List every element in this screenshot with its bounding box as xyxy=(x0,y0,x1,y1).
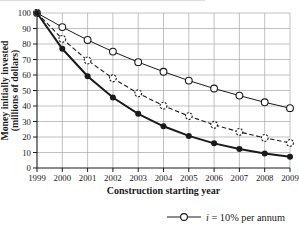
x-tick-label: 1999 xyxy=(28,173,46,183)
data-point-open-circle-dashed xyxy=(236,128,243,135)
data-point-filled-circle xyxy=(85,73,91,79)
data-point-open-circle-dashed xyxy=(287,139,294,146)
x-tick-label: 2007 xyxy=(231,173,249,183)
data-point-open-circle-dashed xyxy=(211,121,218,128)
data-point-open-circle xyxy=(135,59,142,66)
data-point-open-circle xyxy=(185,77,192,84)
data-point-open-circle-dashed xyxy=(261,135,268,142)
data-point-open-circle-dashed xyxy=(59,35,66,42)
y-tick-label: 40 xyxy=(22,101,31,111)
x-tick-label: 2002 xyxy=(104,173,122,183)
x-tick-label: 2001 xyxy=(79,173,97,183)
data-point-filled-circle xyxy=(287,154,293,160)
y-tick-label: 100 xyxy=(18,8,32,18)
legend-label-rest: = 10% per annum xyxy=(209,212,285,223)
data-point-filled-circle xyxy=(211,140,217,146)
legend-marker-circle xyxy=(181,214,188,221)
data-point-open-circle xyxy=(84,37,91,44)
figure: Money initially invested (millions of do… xyxy=(0,0,299,232)
data-point-open-circle-dashed xyxy=(135,90,142,97)
legend: i = 10% per annum xyxy=(167,212,285,223)
axes: 0102030405060708090100199920002001200220… xyxy=(18,8,299,183)
x-tick-label: 2000 xyxy=(54,173,72,183)
legend-label: i = 10% per annum xyxy=(206,212,285,223)
y-tick-label: 60 xyxy=(22,70,31,80)
x-tick-label: 2005 xyxy=(180,173,198,183)
gridlines xyxy=(37,13,290,168)
x-tick-label: 2006 xyxy=(205,173,223,183)
data-point-filled-circle xyxy=(262,150,268,156)
data-point-open-circle xyxy=(236,92,243,99)
data-point-open-circle-dashed xyxy=(110,75,117,82)
x-tick-label: 2004 xyxy=(155,173,173,183)
x-axis-title: Construction starting year xyxy=(107,185,221,196)
data-point-open-circle xyxy=(59,24,66,31)
data-point-filled-circle xyxy=(59,46,65,52)
data-point-filled-circle xyxy=(34,10,40,16)
data-point-filled-circle xyxy=(236,146,242,152)
data-point-open-circle xyxy=(287,105,294,112)
chart-canvas: Money initially invested (millions of do… xyxy=(0,0,299,232)
data-point-open-circle xyxy=(261,99,268,106)
data-point-open-circle xyxy=(110,48,117,55)
x-tick-label: 2008 xyxy=(256,173,274,183)
data-point-filled-circle xyxy=(161,123,167,129)
y-tick-label: 10 xyxy=(22,148,31,158)
y-tick-label: 20 xyxy=(22,132,31,142)
data-point-open-circle-dashed xyxy=(185,113,192,120)
data-point-filled-circle xyxy=(135,111,141,117)
x-tick-label: 2009 xyxy=(281,173,299,183)
y-tick-label: 80 xyxy=(22,39,31,49)
data-point-open-circle-dashed xyxy=(84,57,91,64)
x-tick-label: 2003 xyxy=(129,173,147,183)
data-point-open-circle xyxy=(160,68,167,75)
data-point-filled-circle xyxy=(110,94,116,100)
data-point-filled-circle xyxy=(186,133,192,139)
y-tick-label: 30 xyxy=(22,117,31,127)
y-tick-label: 90 xyxy=(22,24,31,34)
data-point-open-circle-dashed xyxy=(160,102,167,109)
y-axis-title-line2: (millions of dollars) xyxy=(9,50,21,132)
y-tick-label: 50 xyxy=(22,86,31,96)
data-point-open-circle xyxy=(211,85,218,92)
y-tick-label: 0 xyxy=(27,163,32,173)
y-tick-label: 70 xyxy=(22,55,31,65)
